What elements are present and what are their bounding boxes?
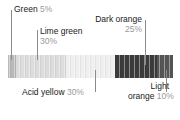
annotation-green-name: Green: [14, 4, 38, 14]
annotation-light-orange-name-2: orange: [128, 91, 154, 101]
bar-segment-acid-yellow: [66, 55, 116, 78]
leader-line-dark-orange: [145, 20, 146, 65]
annotation-acid-yellow-percent: 30%: [67, 87, 84, 97]
annotation-light-orange: Light orange 10%: [128, 82, 169, 101]
annotation-light-orange-percent: 10%: [157, 91, 174, 101]
annotation-dark-orange-percent: 25%: [88, 25, 142, 35]
annotation-light-orange-name-1: Light: [151, 81, 169, 91]
annotation-acid-yellow-name: Acid yellow: [22, 87, 65, 97]
annotation-lime-green: Lime green 30%: [40, 27, 83, 46]
annotation-dark-orange-name: Dark orange: [95, 14, 142, 24]
color-distribution-figure: Green 5% Lime green 30% Dark orange 25% …: [0, 0, 180, 120]
color-distribution-bar: [8, 55, 173, 78]
bar-segment-dark-orange: [115, 55, 156, 78]
annotation-green-percent: 5%: [40, 4, 52, 14]
leader-line-acid-yellow: [95, 70, 96, 92]
annotation-acid-yellow: Acid yellow 30%: [22, 88, 84, 98]
bar-segment-light-orange: [157, 55, 174, 78]
annotation-lime-green-name: Lime green: [40, 26, 83, 36]
annotation-green: Green 5%: [14, 5, 52, 15]
bar-segment-lime-green: [16, 55, 66, 78]
bar-segment-green: [8, 55, 16, 78]
leader-line-green: [11, 10, 12, 60]
leader-line-lime-green: [37, 30, 38, 60]
annotation-dark-orange: Dark orange 25%: [88, 15, 142, 34]
annotation-lime-green-percent: 30%: [40, 37, 83, 47]
